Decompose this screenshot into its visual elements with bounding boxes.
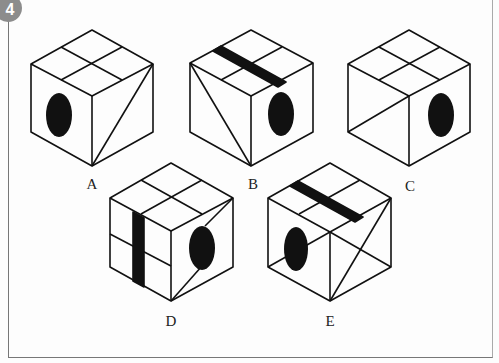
cube-d[interactable] xyxy=(110,163,233,301)
cube-c[interactable] xyxy=(348,30,470,166)
option-label-d: D xyxy=(166,313,177,330)
option-label-a: A xyxy=(87,176,98,193)
cube-a[interactable] xyxy=(31,30,153,166)
cube-e[interactable] xyxy=(268,163,391,301)
option-label-e: E xyxy=(325,313,334,330)
option-label-c: C xyxy=(405,178,415,195)
cube-b[interactable] xyxy=(190,30,313,166)
option-label-b: B xyxy=(248,176,258,193)
